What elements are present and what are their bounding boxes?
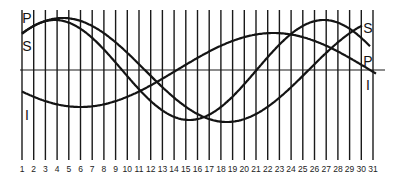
day-label: 21 [251,164,261,174]
day-label: 26 [310,164,320,174]
day-label: 1 [20,164,25,174]
day-label: 24 [286,164,296,174]
day-label: 14 [169,164,179,174]
label-s-left: S [22,38,31,54]
day-label: 31 [368,164,378,174]
day-label: 28 [333,164,343,174]
label-i-right: I [366,77,370,93]
day-label: 3 [43,164,48,174]
day-label: 16 [193,164,203,174]
right-labels: S P I [363,20,372,93]
day-label: 27 [321,164,331,174]
day-label: 15 [181,164,191,174]
day-label: 17 [204,164,214,174]
biorhythm-chart: 1234567891011121314151617181920212223242… [0,0,405,188]
day-label: 30 [357,164,367,174]
day-label: 6 [78,164,83,174]
day-label: 25 [298,164,308,174]
label-p-left: P [22,10,31,26]
day-label: 18 [216,164,226,174]
day-label: 19 [228,164,238,174]
day-label: 2 [31,164,36,174]
day-label: 7 [90,164,95,174]
day-label: 5 [66,164,71,174]
day-label: 13 [158,164,168,174]
day-label: 23 [275,164,285,174]
day-label: 8 [102,164,107,174]
day-label: 11 [135,164,144,174]
day-axis-labels: 1234567891011121314151617181920212223242… [20,164,378,174]
day-label: 9 [113,164,118,174]
day-grid-lines [22,10,373,160]
day-label: 22 [263,164,273,174]
day-label: 4 [55,164,60,174]
label-s-right: S [363,20,372,36]
day-label: 10 [123,164,133,174]
day-label: 29 [345,164,355,174]
day-label: 12 [146,164,156,174]
label-i-left: I [25,107,29,123]
day-label: 20 [240,164,250,174]
label-p-right: P [363,53,372,69]
